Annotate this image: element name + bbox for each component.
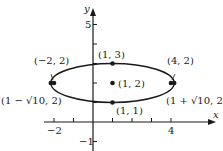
y-axis-arrow-icon	[90, 8, 96, 16]
top-vertex-label: (1, 3)	[98, 49, 125, 60]
right-vertex-point	[172, 81, 177, 86]
ellipse-diagram: −2 4 x −1 5 y (1, 3) (1, 2) (1, 1) (−2, …	[0, 0, 223, 151]
left-vertex-point	[49, 81, 54, 86]
center-label: (1, 2)	[118, 78, 145, 89]
points	[49, 61, 177, 105]
x-axis-label: x	[213, 109, 219, 120]
top-vertex-point	[110, 61, 115, 66]
y-tick-label-neg1: −1	[79, 136, 94, 147]
bottom-vertex-label: (1, 1)	[116, 105, 143, 116]
left-focus-label: (−2, 2)	[34, 55, 69, 66]
y-axis: −1 5 y	[79, 3, 97, 151]
x-tick-label-4: 4	[168, 125, 174, 136]
left-vertex-label: (1 − √10, 2)	[1, 95, 62, 106]
bottom-vertex-point	[110, 100, 115, 105]
right-vertex-label: (1 + √10, 2)	[166, 95, 223, 106]
center-point	[110, 81, 115, 86]
y-axis-label: y	[83, 3, 90, 14]
x-tick-label-neg2: −2	[47, 125, 62, 136]
y-tick-label-5: 5	[85, 19, 91, 30]
right-focus-label: (4, 2)	[167, 55, 194, 66]
